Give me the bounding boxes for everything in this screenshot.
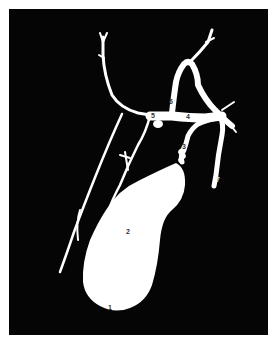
label-1: 1 bbox=[108, 304, 112, 311]
duct-lower-left-branch-a-twig bbox=[77, 210, 80, 240]
label-2: 2 bbox=[126, 228, 130, 235]
gallbladder bbox=[83, 163, 185, 311]
duct-bulb bbox=[153, 120, 163, 128]
duct-upper-left-branch bbox=[103, 37, 150, 115]
biliary-diagram: 1 2 3 4 5 6 7 bbox=[0, 0, 272, 339]
label-6: 6 bbox=[169, 98, 173, 105]
duct-cystic bbox=[181, 118, 218, 162]
duct-left-hepatic-right-twig bbox=[222, 102, 234, 110]
label-7: 7 bbox=[216, 176, 220, 183]
duct-left-hepatic-upper bbox=[190, 30, 212, 62]
label-5: 5 bbox=[151, 112, 155, 119]
label-3: 3 bbox=[182, 143, 186, 150]
label-4: 4 bbox=[186, 113, 190, 120]
